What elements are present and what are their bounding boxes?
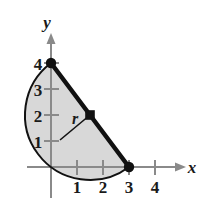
- point-marker-0-4: [46, 58, 56, 68]
- x-tick-label-2: 2: [99, 178, 108, 197]
- x-axis-label: x: [187, 158, 197, 177]
- y-tick-label-4: 4: [34, 55, 43, 74]
- y-axis-arrow-icon: [47, 33, 56, 44]
- x-tick-label-1: 1: [73, 178, 82, 197]
- y-tick-label-1: 1: [34, 133, 43, 152]
- point-marker-3-0: [124, 162, 134, 172]
- x-tick-label-4: 4: [151, 178, 160, 197]
- x-tick-label-3: 3: [125, 178, 134, 197]
- point-marker-center-1.5-2: [85, 110, 95, 120]
- y-tick-label-3: 3: [34, 81, 43, 100]
- y-tick-label-2: 2: [34, 107, 43, 126]
- y-axis-label: y: [41, 13, 51, 32]
- figure-canvas: 4 3 2 1 1 2 3 4 y x r: [0, 0, 198, 211]
- coordinate-plot: 4 3 2 1 1 2 3 4 y x r: [0, 0, 198, 211]
- x-axis-arrow-icon: [175, 163, 186, 172]
- radius-label: r: [72, 110, 79, 127]
